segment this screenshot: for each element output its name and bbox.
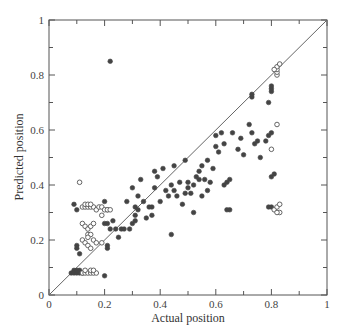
y-tick-label: 0.4 — [30, 179, 44, 191]
filled-data-point — [150, 213, 155, 218]
reference-diagonal-line — [49, 20, 327, 295]
filled-data-point — [264, 139, 269, 144]
open-data-point — [272, 67, 277, 72]
scatter-chart: 00.20.40.60.8100.20.40.60.81 Actual posi… — [0, 0, 348, 334]
filled-data-point — [75, 243, 80, 248]
filled-data-point — [102, 274, 107, 279]
filled-data-point — [200, 194, 205, 199]
open-data-point — [108, 208, 113, 213]
filled-data-point — [258, 155, 263, 160]
open-data-point — [275, 122, 280, 127]
filled-data-point — [152, 169, 157, 174]
filled-data-point — [180, 202, 185, 207]
filled-data-point — [183, 158, 188, 163]
filled-data-point — [102, 199, 107, 204]
filled-data-point — [191, 210, 196, 215]
filled-data-point — [219, 131, 224, 136]
y-tick-label: 0 — [39, 289, 45, 301]
filled-data-point — [150, 205, 155, 210]
filled-data-point — [216, 150, 221, 155]
x-tick-label: 0.6 — [209, 298, 223, 310]
filled-data-point — [183, 191, 188, 196]
filled-data-point — [127, 227, 132, 232]
filled-data-point — [205, 158, 210, 163]
filled-data-point — [175, 194, 180, 199]
filled-data-point — [75, 208, 80, 213]
filled-data-point — [105, 246, 110, 251]
filled-data-point — [236, 147, 241, 152]
filled-data-point — [155, 175, 160, 180]
filled-data-point — [250, 92, 255, 97]
open-data-point — [83, 268, 88, 273]
filled-data-point — [133, 213, 138, 218]
x-tick-label: 0.8 — [265, 298, 279, 310]
x-tick-label: 0.4 — [153, 298, 167, 310]
filled-data-point — [130, 186, 135, 191]
filled-data-point — [197, 169, 202, 174]
filled-data-point — [108, 59, 113, 64]
filled-data-point — [136, 194, 141, 199]
filled-data-point — [208, 180, 213, 185]
open-data-point — [88, 202, 93, 207]
filled-data-point — [111, 219, 116, 224]
filled-data-point — [214, 144, 219, 149]
open-data-point — [94, 241, 99, 246]
y-axis-title: Predicted position — [12, 114, 26, 201]
open-data-point — [275, 210, 280, 215]
open-data-point — [77, 180, 82, 185]
y-tick-label: 1 — [39, 14, 45, 26]
filled-data-point — [272, 172, 277, 177]
filled-data-point — [250, 131, 255, 136]
filled-data-point — [166, 194, 171, 199]
filled-data-point — [230, 131, 235, 136]
filled-data-point — [102, 221, 107, 226]
filled-data-point — [247, 122, 252, 127]
filled-data-point — [197, 177, 202, 182]
filled-data-point — [136, 208, 141, 213]
y-tick-label: 0.2 — [30, 234, 44, 246]
open-data-point — [100, 241, 105, 246]
filled-data-point — [239, 136, 244, 141]
data-points — [69, 59, 282, 278]
open-data-point — [88, 246, 93, 251]
x-tick-label: 1 — [324, 298, 330, 310]
filled-data-point — [125, 199, 130, 204]
filled-data-point — [152, 186, 157, 191]
filled-data-point — [202, 177, 207, 182]
x-tick-label: 0 — [46, 298, 52, 310]
filled-data-point — [214, 133, 219, 138]
filled-data-point — [227, 208, 232, 213]
filled-data-point — [200, 164, 205, 169]
filled-data-point — [164, 188, 169, 193]
filled-data-point — [122, 227, 127, 232]
x-axis-title: Actual position — [151, 311, 225, 325]
filled-data-point — [255, 139, 260, 144]
filled-data-point — [77, 252, 82, 257]
filled-data-point — [138, 177, 143, 182]
axis-tick-labels: 00.20.40.60.8100.20.40.60.81 — [30, 14, 330, 310]
filled-data-point — [227, 177, 232, 182]
y-tick-label: 0.6 — [30, 124, 44, 136]
filled-data-point — [269, 131, 274, 136]
filled-data-point — [72, 202, 77, 207]
open-data-point — [269, 147, 274, 152]
filled-data-point — [113, 227, 118, 232]
filled-data-point — [211, 166, 216, 171]
filled-data-point — [169, 183, 174, 188]
filled-data-point — [177, 180, 182, 185]
filled-data-point — [269, 84, 274, 89]
filled-data-point — [186, 186, 191, 191]
filled-data-point — [266, 100, 271, 105]
x-tick-label: 0.2 — [98, 298, 112, 310]
filled-data-point — [205, 188, 210, 193]
filled-data-point — [144, 216, 149, 221]
filled-data-point — [169, 232, 174, 237]
filled-data-point — [191, 183, 196, 188]
open-data-point — [91, 221, 96, 226]
open-data-point — [277, 202, 282, 207]
filled-data-point — [141, 199, 146, 204]
open-data-point — [86, 235, 91, 240]
filled-data-point — [241, 153, 246, 158]
filled-data-point — [172, 164, 177, 169]
filled-data-point — [116, 235, 121, 240]
